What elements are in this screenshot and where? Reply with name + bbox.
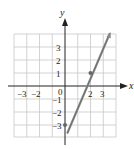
- x-tick-label: 3: [100, 89, 105, 99]
- y-tick-label: −3: [52, 121, 62, 131]
- y-tick-label: 2: [56, 56, 61, 66]
- x-tick-label: −3: [17, 89, 27, 99]
- x-axis-label: x: [128, 80, 134, 91]
- y-axis-arrow-icon: [62, 18, 68, 26]
- x-axis-arrow-icon: [120, 83, 128, 89]
- point-2-1: [89, 71, 93, 75]
- x-tick-label: 2: [88, 89, 93, 99]
- y-tick-label: −1: [52, 95, 62, 105]
- y-tick-label: −2: [52, 108, 62, 118]
- x-tick-label: −2: [31, 89, 41, 99]
- point-0-neg3: [63, 123, 67, 127]
- y-axis-label: y: [59, 7, 65, 18]
- coordinate-graph: x y −3 −2 0 2 3 3 2 1 −1 −2 −3: [0, 0, 134, 149]
- y-tick-label: 3: [56, 43, 61, 53]
- y-tick-label: 1: [56, 69, 61, 79]
